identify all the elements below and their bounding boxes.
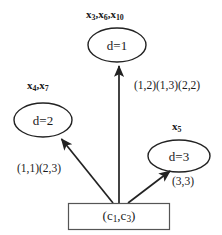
node-tag-d2: x4,x7 xyxy=(27,80,49,93)
tag-d2-var2: ,x xyxy=(36,79,44,91)
box-text-close: ) xyxy=(131,208,135,223)
edge-label-d2: (1,1)(2,3) xyxy=(17,163,61,175)
node-label-d1: d=1 xyxy=(88,39,146,52)
tag-d3-sub1: 5 xyxy=(178,125,182,134)
edge-source-to-d2 xyxy=(62,139,114,203)
node-tag-d3: x5 xyxy=(172,121,181,134)
node-label-d3: d=3 xyxy=(148,150,210,163)
tag-d1-var3: ,x xyxy=(108,8,116,20)
node-label-source: (c1,c3) xyxy=(68,209,170,225)
tag-d1-sub3: 10 xyxy=(116,13,124,22)
edge-source-to-d3 xyxy=(128,171,170,203)
edge-label-d3: (3,3) xyxy=(172,176,194,188)
edge-label-d1: (1,2)(1,3)(2,2) xyxy=(134,80,200,92)
diagram-canvas: d=1 d=2 d=3 x3,x6,x10 x4,x7 x5 (1,2)(1,3… xyxy=(0,0,222,235)
tag-d1-var2: ,x xyxy=(95,8,103,20)
tag-d2-sub2: 7 xyxy=(45,84,49,93)
box-text-open: (c xyxy=(103,208,113,223)
node-tag-d1: x3,x6,x10 xyxy=(86,9,124,22)
node-label-d2: d=2 xyxy=(14,114,72,127)
